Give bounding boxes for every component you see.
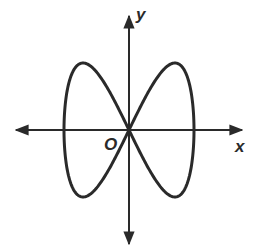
graph-canvas xyxy=(0,0,257,250)
x-axis-label: x xyxy=(235,138,244,155)
origin-label: O xyxy=(104,136,117,153)
y-axis-label: y xyxy=(136,6,145,23)
